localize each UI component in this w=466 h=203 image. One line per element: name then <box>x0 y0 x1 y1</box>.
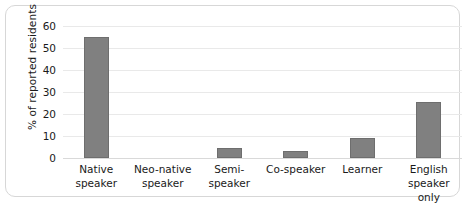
x-axis-tick-labels: NativespeakerNeo-nativespeakerSemi-speak… <box>63 162 462 203</box>
gridline-30 <box>63 92 462 93</box>
x-tick-label-line: Neo-native <box>130 162 197 176</box>
x-tick-label-line: speaker <box>63 176 130 190</box>
bar-co-speaker <box>283 151 308 158</box>
x-tick-label-neo-native-speaker: Neo-nativespeaker <box>130 162 197 190</box>
bar-native-speaker <box>84 37 109 158</box>
y-tick-label-40: 40 <box>26 64 56 76</box>
x-tick-label-semi-speaker: Semi-speaker <box>196 162 263 190</box>
gridline-50 <box>63 48 462 49</box>
gridline-0 <box>63 158 462 159</box>
gridline-60 <box>63 26 462 27</box>
x-tick-label-line: Semi-speaker <box>196 162 263 190</box>
bar-learner <box>350 138 375 158</box>
gridline-40 <box>63 70 462 71</box>
x-tick-label-line: Native <box>63 162 130 176</box>
x-tick-label-learner: Learner <box>329 162 396 176</box>
x-tick-label-line: English <box>396 162 463 176</box>
x-tick-label-line: Co-speaker <box>263 162 330 176</box>
x-tick-label-line: Learner <box>329 162 396 176</box>
x-tick-label-line: speaker <box>130 176 197 190</box>
y-tick-label-20: 20 <box>26 108 56 120</box>
chart-screenshot: % of reported residents 6050403020100 Na… <box>0 0 466 203</box>
y-tick-label-10: 10 <box>26 130 56 142</box>
x-tick-label-line: speaker only <box>396 176 463 203</box>
y-tick-label-30: 30 <box>26 86 56 98</box>
y-axis-tick-labels: 6050403020100 <box>24 26 56 158</box>
bar-english-speaker-only <box>416 102 441 158</box>
gridline-20 <box>63 114 462 115</box>
x-tick-label-english-speaker-only: Englishspeaker only <box>396 162 463 203</box>
y-tick-label-0: 0 <box>26 152 56 164</box>
bar-semi-speaker <box>217 148 242 158</box>
y-tick-label-50: 50 <box>26 42 56 54</box>
x-tick-label-native-speaker: Nativespeaker <box>63 162 130 190</box>
gridline-10 <box>63 136 462 137</box>
y-tick-label-60: 60 <box>26 20 56 32</box>
chart-frame: % of reported residents 6050403020100 Na… <box>5 5 460 197</box>
plot-area <box>63 26 462 158</box>
x-tick-label-co-speaker: Co-speaker <box>263 162 330 176</box>
